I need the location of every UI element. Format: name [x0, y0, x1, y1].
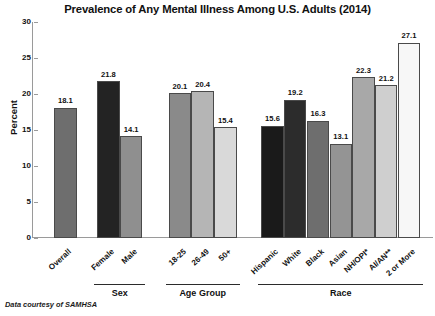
y-axis-tick-label: 20: [22, 89, 31, 99]
bar-value-label: 19.2: [288, 88, 303, 97]
bar: [398, 43, 420, 238]
footnote: Data courtesy of SAMHSA: [5, 300, 97, 309]
bar-group: 13.1: [330, 22, 352, 238]
group-label: Age Group: [166, 288, 240, 298]
group-rule: [258, 284, 423, 285]
bar-group: 22.3: [352, 22, 374, 238]
bar-value-label: 20.1: [172, 82, 187, 91]
bar: [352, 77, 374, 238]
bar-group: 16.3: [307, 22, 329, 238]
group-rule: [94, 284, 145, 285]
bar-chart: Prevalence of Any Mental Illness Among U…: [0, 0, 435, 316]
bar: [97, 81, 119, 238]
y-axis-tick-label: 5: [27, 197, 31, 207]
bar-value-label: 27.1: [402, 31, 417, 40]
y-axis-tick-label: 25: [22, 53, 31, 63]
bar-group: 21.2: [375, 22, 397, 238]
bar: [307, 121, 329, 238]
y-axis-tick-label: 10: [22, 161, 31, 171]
group-rule: [166, 284, 240, 285]
bar-value-label: 21.2: [379, 74, 394, 83]
bar: [284, 100, 306, 238]
bar-group: 15.6: [261, 22, 283, 238]
bar: [375, 85, 397, 238]
bar: [120, 136, 142, 238]
plot-area: 18.121.814.120.120.415.415.619.216.313.1…: [33, 22, 433, 238]
bar-group: 14.1: [120, 22, 142, 238]
bar-value-label: 14.1: [124, 125, 139, 134]
bar-value-label: 21.8: [101, 70, 116, 79]
bar-value-label: 18.1: [58, 96, 73, 105]
bar-value-label: 16.3: [311, 109, 326, 118]
bar-group: 15.4: [214, 22, 236, 238]
bar: [330, 144, 352, 238]
bar-value-label: 20.4: [195, 80, 210, 89]
chart-title: Prevalence of Any Mental Illness Among U…: [0, 3, 435, 15]
bar: [261, 126, 283, 238]
y-axis-tick-label: 30: [22, 17, 31, 27]
bar-group: 19.2: [284, 22, 306, 238]
group-label: Race: [258, 288, 423, 298]
bar: [191, 91, 213, 238]
bar: [54, 108, 76, 238]
y-axis-tick-label: 0: [27, 233, 31, 243]
bar-group: 20.1: [169, 22, 191, 238]
bar-group: 21.8: [97, 22, 119, 238]
bar: [214, 127, 236, 238]
y-axis-tick-label: 15: [22, 125, 31, 135]
bar-value-label: 15.4: [218, 116, 233, 125]
bar-group: 18.1: [54, 22, 76, 238]
bar-value-label: 15.6: [265, 114, 280, 123]
bar-group: 20.4: [191, 22, 213, 238]
bar-group: 27.1: [398, 22, 420, 238]
bar: [169, 93, 191, 238]
bar-value-label: 13.1: [333, 132, 348, 141]
group-label: Sex: [94, 288, 145, 298]
bar-value-label: 22.3: [356, 66, 371, 75]
